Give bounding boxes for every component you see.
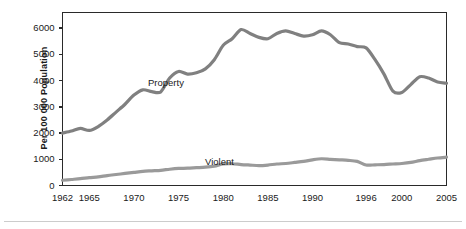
crime-rate-line-chart: Per 100 000 Population 01000200030004000… [0,0,466,229]
violent-series-label: Violent [205,156,234,167]
property-series-label: Property [148,77,184,88]
series-lines-layer [0,0,466,229]
bottom-divider-rule [4,221,462,222]
violent-series-line [63,157,447,180]
property-series-line [63,29,447,133]
